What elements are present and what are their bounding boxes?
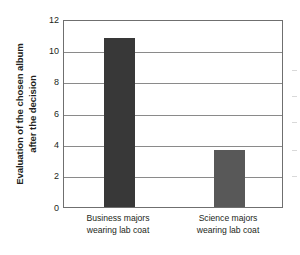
gridline: [64, 115, 282, 116]
scan-artifact: [292, 176, 297, 177]
y-tick-label: 0: [37, 204, 59, 213]
y-tick-label: 8: [37, 78, 59, 87]
scan-artifact: [292, 96, 297, 97]
y-tick-label: 10: [37, 47, 59, 56]
category-label: Business majorswearing lab coat: [58, 213, 178, 236]
category-label-line-1: Science majors: [168, 213, 288, 225]
category-label-line-2: wearing lab coat: [58, 225, 178, 237]
y-tick-label: 12: [37, 16, 59, 25]
y-tick-label: 4: [37, 141, 59, 150]
category-label-line-2: wearing lab coat: [168, 225, 288, 237]
gridline: [64, 177, 282, 178]
bar-chart-figure: Evaluation of the chosen album after the…: [0, 0, 300, 255]
y-tick-label: 2: [37, 172, 59, 181]
gridline: [64, 146, 282, 147]
bar: [104, 38, 135, 207]
y-tick-label: 6: [37, 110, 59, 119]
scan-artifact: [292, 122, 297, 123]
y-axis-title-line-1: Evaluation of the chosen album: [13, 18, 26, 210]
scan-artifact: [292, 150, 297, 151]
category-label: Science majorswearing lab coat: [168, 213, 288, 236]
bar: [214, 150, 245, 207]
scan-artifact: [292, 70, 297, 71]
plot-area: [63, 20, 283, 208]
gridline: [64, 83, 282, 84]
category-label-line-1: Business majors: [58, 213, 178, 225]
gridline: [64, 52, 282, 53]
